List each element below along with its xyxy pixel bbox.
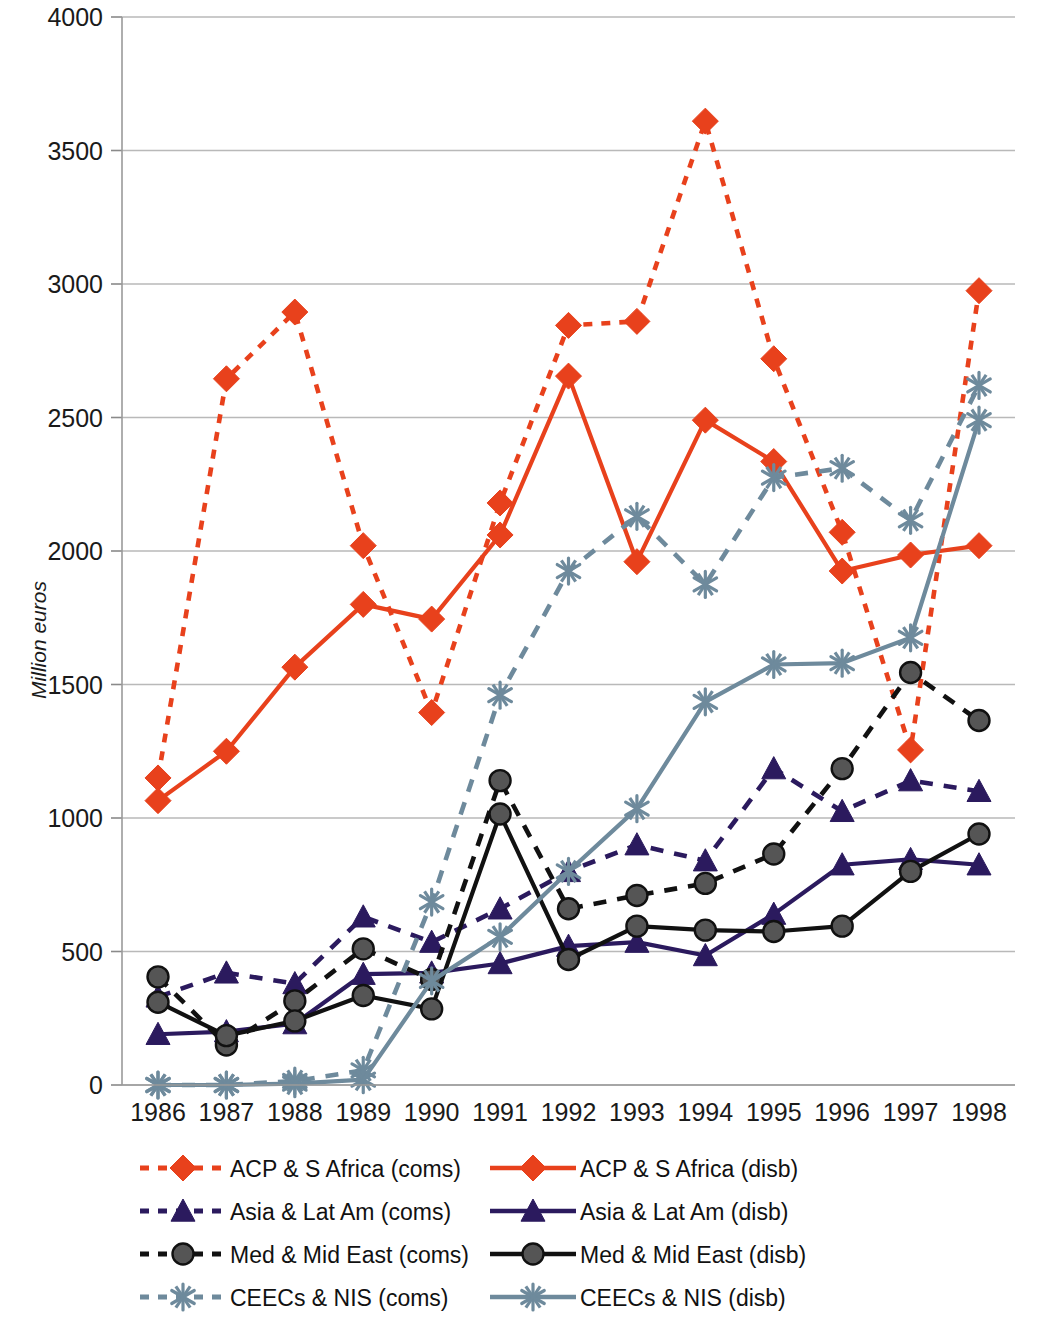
- legend: ACP & S Africa (coms)ACP & S Africa (dis…: [140, 1155, 806, 1311]
- x-tick-label: 1994: [678, 1098, 734, 1126]
- legend-item-ceec_coms[interactable]: CEECs & NIS (coms): [140, 1284, 449, 1311]
- marker-asterisk: [968, 372, 991, 398]
- marker-diamond: [624, 308, 650, 334]
- marker-asterisk: [420, 889, 443, 915]
- y-tick-label: 4000: [47, 3, 103, 31]
- marker-circle: [695, 920, 716, 941]
- marker-diamond: [829, 558, 855, 584]
- y-axis-title: Million euros: [27, 581, 50, 699]
- marker-circle: [763, 921, 784, 942]
- x-tick-label: 1986: [130, 1098, 186, 1126]
- marker-circle: [969, 824, 990, 845]
- marker-circle: [353, 985, 374, 1006]
- marker-circle: [284, 1010, 305, 1031]
- marker-triangle: [488, 897, 512, 919]
- marker-diamond: [898, 542, 924, 568]
- chart-container: 05001000150020002500300035004000Million …: [0, 0, 1038, 1331]
- marker-circle: [558, 898, 579, 919]
- y-tick-label: 3500: [47, 137, 103, 165]
- marker-diamond: [624, 549, 650, 575]
- marker-circle: [626, 916, 647, 937]
- marker-circle: [832, 916, 853, 937]
- marker-circle: [832, 758, 853, 779]
- y-tick-label: 0: [89, 1071, 103, 1099]
- marker-asterisk: [694, 689, 717, 715]
- legend-item-acp_coms[interactable]: ACP & S Africa (coms): [140, 1155, 461, 1182]
- marker-diamond: [692, 407, 718, 433]
- marker-circle: [523, 1244, 544, 1265]
- legend-label-ceec_coms: CEECs & NIS (coms): [230, 1285, 449, 1311]
- gridlines: 05001000150020002500300035004000: [47, 3, 1015, 1099]
- marker-circle: [216, 1025, 237, 1046]
- legend-item-acp_disb[interactable]: ACP & S Africa (disb): [490, 1155, 798, 1182]
- series-acp_coms: [145, 108, 992, 791]
- line-chart: 05001000150020002500300035004000Million …: [0, 0, 1038, 1331]
- marker-circle: [148, 992, 169, 1013]
- marker-diamond: [556, 312, 582, 338]
- marker-circle: [421, 998, 442, 1019]
- x-tick-label: 1987: [199, 1098, 255, 1126]
- marker-circle: [353, 938, 374, 959]
- marker-circle: [148, 966, 169, 987]
- marker-asterisk: [899, 507, 922, 533]
- x-tick-label: 1993: [609, 1098, 665, 1126]
- marker-triangle: [830, 799, 854, 821]
- series-ceec_disb: [147, 407, 991, 1098]
- marker-circle: [558, 949, 579, 970]
- legend-item-asia_disb[interactable]: Asia & Lat Am (disb): [490, 1199, 788, 1225]
- legend-item-asia_coms[interactable]: Asia & Lat Am (coms): [140, 1199, 451, 1225]
- series-acp_disb: [145, 363, 992, 814]
- marker-diamond: [520, 1155, 546, 1181]
- y-tick-label: 2500: [47, 404, 103, 432]
- marker-circle: [626, 885, 647, 906]
- x-tick-label: 1995: [746, 1098, 802, 1126]
- legend-item-ceec_disb[interactable]: CEECs & NIS (disb): [490, 1284, 786, 1311]
- marker-asterisk: [489, 682, 512, 708]
- marker-triangle: [693, 849, 717, 871]
- marker-asterisk: [172, 1284, 195, 1310]
- series-line-med_disb: [158, 814, 979, 1036]
- marker-diamond: [556, 363, 582, 389]
- x-tick-label: 1992: [541, 1098, 597, 1126]
- marker-triangle: [171, 1199, 195, 1221]
- marker-asterisk: [626, 796, 649, 822]
- marker-triangle: [625, 833, 649, 855]
- marker-asterisk: [557, 858, 580, 884]
- marker-asterisk: [694, 571, 717, 597]
- marker-asterisk: [557, 558, 580, 584]
- legend-label-med_coms: Med & Mid East (coms): [230, 1242, 469, 1268]
- series-line-acp_disb: [158, 376, 979, 801]
- marker-asterisk: [626, 503, 649, 529]
- y-tick-label: 1000: [47, 804, 103, 832]
- legend-item-med_disb[interactable]: Med & Mid East (disb): [490, 1242, 806, 1268]
- legend-label-acp_disb: ACP & S Africa (disb): [580, 1156, 798, 1182]
- marker-diamond: [966, 533, 992, 559]
- series-line-acp_coms: [158, 121, 979, 778]
- marker-triangle: [899, 769, 923, 791]
- legend-label-asia_coms: Asia & Lat Am (coms): [230, 1199, 451, 1225]
- marker-circle: [490, 770, 511, 791]
- legend-item-med_coms[interactable]: Med & Mid East (coms): [140, 1242, 469, 1268]
- y-tick-label: 1500: [47, 671, 103, 699]
- marker-asterisk: [489, 924, 512, 950]
- x-tick-label: 1998: [951, 1098, 1007, 1126]
- y-tick-label: 2000: [47, 537, 103, 565]
- marker-circle: [969, 710, 990, 731]
- legend-label-med_disb: Med & Mid East (disb): [580, 1242, 806, 1268]
- y-tick-label: 500: [61, 938, 103, 966]
- legend-label-acp_coms: ACP & S Africa (coms): [230, 1156, 461, 1182]
- marker-circle: [763, 844, 784, 865]
- marker-asterisk: [831, 455, 854, 481]
- series-med_disb: [148, 803, 990, 1046]
- y-tick-label: 3000: [47, 270, 103, 298]
- legend-label-ceec_disb: CEECs & NIS (disb): [580, 1285, 786, 1311]
- x-axis-labels: 1986198719881989199019911992199319941995…: [130, 1098, 1007, 1126]
- x-tick-label: 1989: [335, 1098, 391, 1126]
- marker-circle: [900, 861, 921, 882]
- marker-asterisk: [899, 625, 922, 651]
- marker-diamond: [170, 1155, 196, 1181]
- x-tick-label: 1997: [883, 1098, 939, 1126]
- marker-circle: [284, 990, 305, 1011]
- marker-circle: [695, 873, 716, 894]
- marker-circle: [173, 1244, 194, 1265]
